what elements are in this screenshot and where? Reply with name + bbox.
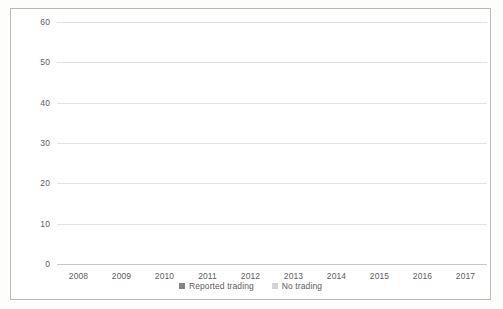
chart-legend: Reported tradingNo trading xyxy=(11,281,490,291)
bar-group[interactable]: 2014 xyxy=(316,23,358,265)
plot-area: 0102030405060 20082009201020112012201320… xyxy=(57,23,487,265)
bar-group[interactable]: 2015 xyxy=(359,23,401,265)
bar-group[interactable]: 2016 xyxy=(402,23,444,265)
bar-group[interactable]: 2011 xyxy=(187,23,229,265)
x-axis-line xyxy=(57,264,487,265)
y-axis-tick-label: 0 xyxy=(45,259,50,269)
chart-frame: 0102030405060 20082009201020112012201320… xyxy=(10,8,491,300)
bar-group[interactable]: 2012 xyxy=(230,23,272,265)
bar-group[interactable]: 2017 xyxy=(445,23,487,265)
y-axis-tick-label: 50 xyxy=(40,57,50,67)
x-axis-tick-label: 2012 xyxy=(241,271,260,281)
legend-item[interactable]: Reported trading xyxy=(179,281,254,291)
bar-group[interactable]: 2013 xyxy=(273,23,315,265)
y-axis-tick-label: 30 xyxy=(40,138,50,148)
legend-label: Reported trading xyxy=(189,281,254,291)
bar-group[interactable]: 2010 xyxy=(144,23,186,265)
x-axis-tick-label: 2014 xyxy=(327,271,346,281)
x-axis-tick-label: 2013 xyxy=(284,271,303,281)
x-axis-tick-label: 2017 xyxy=(456,271,475,281)
bars-layer: 2008200920102011201220132014201520162017 xyxy=(57,23,487,265)
y-axis-tick-label: 10 xyxy=(40,219,50,229)
y-axis-tick-label: 60 xyxy=(40,17,50,27)
legend-swatch-icon xyxy=(179,283,185,289)
legend-item[interactable]: No trading xyxy=(272,281,322,291)
chart-page: 0102030405060 20082009201020112012201320… xyxy=(0,0,503,309)
x-axis-tick-label: 2009 xyxy=(112,271,131,281)
y-axis-tick-label: 40 xyxy=(40,98,50,108)
x-axis-tick-label: 2010 xyxy=(155,271,174,281)
bar-group[interactable]: 2008 xyxy=(58,23,100,265)
y-axis-tick-label: 20 xyxy=(40,178,50,188)
x-axis-tick-label: 2011 xyxy=(198,271,217,281)
x-axis-tick-label: 2015 xyxy=(370,271,389,281)
legend-swatch-icon xyxy=(272,283,278,289)
x-axis-tick-label: 2016 xyxy=(413,271,432,281)
bar-group[interactable]: 2009 xyxy=(101,23,143,265)
legend-label: No trading xyxy=(282,281,322,291)
x-axis-tick-label: 2008 xyxy=(69,271,88,281)
